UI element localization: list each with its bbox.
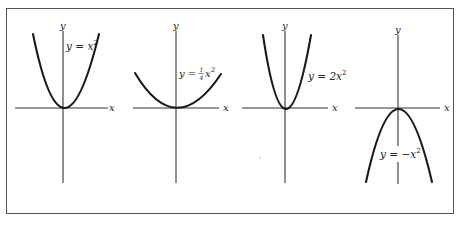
svg-text:1: 1 (200, 66, 204, 73)
x-axis-label: x (223, 102, 229, 113)
y-axis-label: y (281, 20, 288, 31)
y-axis-label: y (394, 24, 401, 35)
panel-y-equals-quarter-x-squared: x y y = 1 4 x 2 (133, 20, 229, 183)
x-axis-label: x (444, 102, 450, 113)
svg-text:4: 4 (199, 74, 204, 81)
parabola-curve (366, 109, 432, 182)
x-axis-label: x (109, 102, 115, 113)
svg-text:2: 2 (210, 66, 215, 74)
svg-text:y =: y = (178, 68, 196, 79)
y-axis-label: y (172, 20, 179, 31)
panel-y-equals-negative-x-squared: x y y = −x2 (355, 24, 450, 184)
equation-label: y = −x2 (379, 147, 421, 160)
equation-label: y = 1 4 x 2 (178, 66, 215, 81)
parabola-figure: x y y = x2 x y y = 1 4 x 2 x y y = 2x2 (0, 0, 462, 225)
panel-y-equals-two-x-squared: x y y = 2x2 (242, 20, 346, 183)
x-axis-label: x (332, 102, 338, 113)
equation-label: y = x2 (65, 39, 98, 52)
equation-label: y = 2x2 (307, 69, 346, 82)
speck (259, 157, 261, 159)
panel-y-equals-x-squared: x y y = x2 (15, 20, 115, 183)
parabola-curve (263, 35, 311, 109)
y-axis-label: y (59, 20, 66, 31)
